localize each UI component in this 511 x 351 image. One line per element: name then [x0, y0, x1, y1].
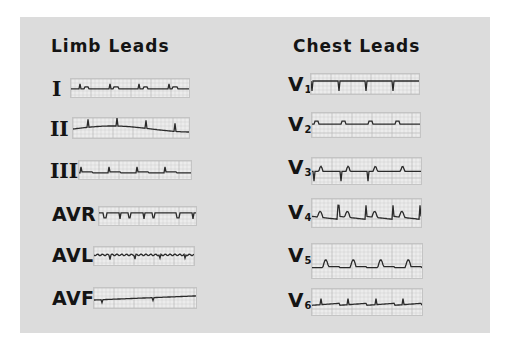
lead-label: I	[52, 77, 61, 101]
ecg-trace	[312, 299, 422, 306]
chest-leads-heading: Chest Leads	[293, 36, 420, 56]
ecg-trace	[99, 213, 196, 219]
ecg-strip	[98, 206, 197, 226]
lead-label: V3	[288, 155, 311, 179]
ecg-strip	[93, 246, 195, 266]
ecg-strip	[311, 157, 422, 185]
lead-label-letter: V	[288, 112, 303, 136]
ecg-trace	[312, 121, 420, 124]
lead-label: V5	[288, 243, 311, 267]
lead-label: V4	[288, 200, 311, 224]
lead-label: V6	[288, 288, 311, 312]
ecg-strip	[93, 287, 197, 309]
ecg-strip	[310, 73, 420, 95]
lead-label: V1	[288, 72, 311, 96]
ecg-grid	[94, 247, 194, 265]
ecg-grid	[312, 244, 422, 278]
lead-label-letter: V	[288, 155, 303, 179]
limb-leads-heading: Limb Leads	[51, 36, 170, 56]
ecg-strip	[70, 78, 190, 98]
ecg-strip	[72, 117, 190, 139]
ecg-grid	[79, 161, 191, 179]
lead-label: AVF	[52, 287, 95, 309]
ecg-trace	[312, 166, 421, 181]
ecg-grid	[71, 79, 189, 97]
ecg-grid	[73, 118, 189, 138]
lead-label: II	[50, 117, 69, 141]
ecg-grid	[94, 288, 196, 308]
lead-label-letter: V	[288, 243, 303, 267]
ecg-strip	[311, 288, 423, 316]
ecg-grid	[312, 113, 420, 137]
ecg-strip	[311, 243, 423, 279]
ecg-trace	[94, 296, 196, 303]
ecg-grid	[99, 207, 196, 225]
ecg-grid	[312, 289, 422, 315]
lead-label: III	[50, 159, 78, 183]
ecg-trace	[94, 254, 194, 260]
ecg-grid	[312, 158, 421, 184]
ecg-trace	[312, 205, 421, 219]
ecg-strip	[311, 112, 421, 138]
lead-label-letter: V	[288, 72, 303, 96]
ecg-grid	[312, 199, 421, 227]
lead-label-letter: V	[288, 288, 303, 312]
ecg-strip	[311, 198, 422, 228]
lead-label: V2	[288, 112, 311, 136]
lead-label: AVR	[52, 203, 96, 225]
ecg-grid	[311, 74, 419, 94]
lead-label: AVL	[52, 244, 94, 266]
ecg-strip	[78, 160, 192, 180]
lead-label-letter: V	[288, 200, 303, 224]
